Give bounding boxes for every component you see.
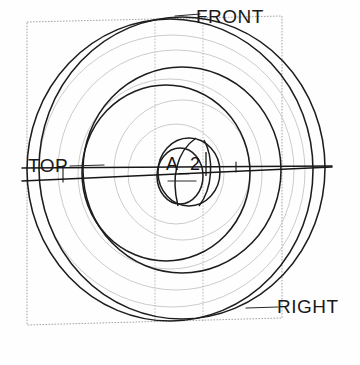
axis-identifier-label: A_2: [166, 154, 201, 175]
leader-right: [246, 307, 278, 308]
view-label-top: TOP: [28, 155, 68, 177]
cad-drawing-canvas[interactable]: FRONT TOP RIGHT A_2: [0, 0, 360, 365]
view-label-front: FRONT: [196, 6, 264, 28]
view-label-right: RIGHT: [277, 296, 339, 318]
leader-top: [70, 165, 104, 166]
